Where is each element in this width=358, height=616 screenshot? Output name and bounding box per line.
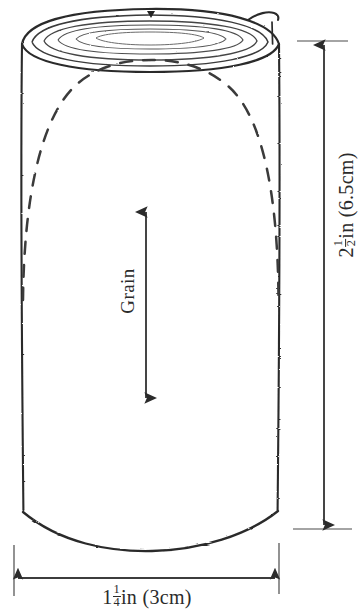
- cylinder-right-edge: [278, 44, 280, 510]
- hidden-seam-arch: [23, 60, 279, 300]
- grain-label: Grain: [117, 251, 139, 331]
- hidden-arch-dashed-line: [23, 60, 279, 300]
- width-fraction: 14: [113, 584, 121, 609]
- coil-loose-tail: [248, 12, 278, 20]
- cylinder-bottom-edge: [23, 511, 278, 551]
- width-fraction-denominator: 4: [113, 597, 121, 609]
- width-unit: in: [121, 586, 137, 608]
- height-metric: (6.5cm): [335, 152, 357, 217]
- fabric-roll-coil: [22, 9, 279, 72]
- width-metric: (3cm): [142, 586, 191, 608]
- width-dimension-label: 114in (3cm): [0, 583, 294, 609]
- height-whole-number: 2: [335, 247, 357, 257]
- coil-outer-ring: [22, 9, 279, 72]
- height-dimension-label: 212in (6.5cm): [332, 115, 358, 295]
- height-fraction: 12: [333, 239, 358, 247]
- width-whole-number: 1: [102, 586, 112, 608]
- height-unit: in: [335, 223, 357, 239]
- coil-tail-tick: [272, 22, 273, 44]
- height-fraction-denominator: 2: [346, 239, 358, 247]
- grain-label-text: Grain: [117, 268, 138, 313]
- cylinder-body: [21, 44, 279, 551]
